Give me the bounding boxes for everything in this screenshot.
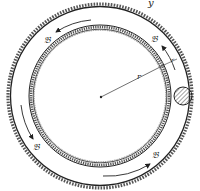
- radius-line: [101, 64, 166, 97]
- top-label: y: [147, 0, 154, 8]
- label-top-left: 𝔅: [44, 35, 52, 45]
- radius-indicator: r r: [100, 56, 177, 98]
- label-top-right: 𝔅: [151, 34, 159, 44]
- label-bottom-left: 𝔅: [33, 142, 41, 152]
- inner-ring: [29, 25, 171, 167]
- ring-diagram: y 𝔅 𝔅 𝔅 𝔅 r r: [0, 0, 200, 191]
- gap-label: r: [171, 56, 175, 63]
- label-bottom-right: 𝔅: [152, 150, 160, 160]
- ball: [174, 87, 192, 105]
- outer-ring: [8, 4, 192, 188]
